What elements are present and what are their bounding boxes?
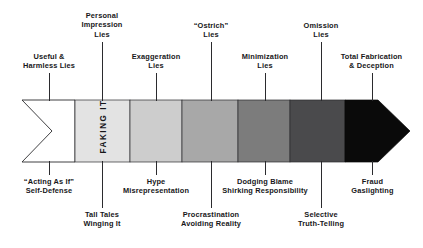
label-line: “Ostrich”: [167, 21, 255, 30]
label-line: Hype: [107, 177, 205, 186]
leader-line-above-1: [49, 73, 50, 101]
label-line: Tall Tales: [62, 210, 142, 219]
label-line: Selective: [281, 210, 361, 219]
label-total-fabrication-deception: Total Fabrication & Deception: [320, 52, 423, 71]
label-line: Lies: [218, 61, 312, 70]
label-line: Truth-Telling: [281, 219, 361, 228]
leader-line-below-1: [49, 161, 50, 175]
label-line: Dodging Blame: [196, 177, 334, 186]
lie-spectrum-diagram: FAKING IT Useful & Harmless Lies Persona…: [0, 0, 423, 248]
leader-line-above-7: [372, 73, 373, 101]
band-segment-7-arrowhead: [345, 100, 410, 162]
leader-line-below-2: [102, 161, 103, 208]
label-useful-harmless-lies: Useful & Harmless Lies: [0, 52, 98, 71]
label-line: Avoiding Reality: [162, 219, 260, 228]
label-line: Total Fabrication: [320, 52, 423, 61]
label-fraud-gaslighting: Fraud Gaslighting: [335, 177, 410, 196]
leader-line-above-5: [265, 73, 266, 101]
label-line: Fraud: [335, 177, 410, 186]
band-segment-1: [22, 100, 75, 162]
leader-line-below-5: [265, 161, 266, 175]
label-line: Winging It: [62, 219, 142, 228]
label-omission-lies: Omission Lies: [279, 21, 363, 40]
label-line: Lies: [110, 61, 202, 70]
leader-line-above-3: [156, 73, 157, 101]
label-line: Personal: [59, 11, 145, 20]
label-tall-tales-winging-it: Tall Tales Winging It: [62, 210, 142, 229]
leader-line-above-2: [102, 42, 103, 101]
label-line: Lies: [59, 30, 145, 39]
label-line: Procrastination: [162, 210, 260, 219]
label-line: Harmless Lies: [0, 61, 98, 70]
label-line: Gaslighting: [335, 186, 410, 195]
label-line: Omission: [279, 21, 363, 30]
label-acting-as-if-self-defense: “Acting As If” Self-Defense: [3, 177, 95, 196]
label-line: Lies: [167, 30, 255, 39]
label-hype-misrepresentation: Hype Misrepresentation: [107, 177, 205, 196]
leader-line-above-4: [211, 42, 212, 101]
label-line: Self-Defense: [3, 186, 95, 195]
label-ostrich-lies: “Ostrich” Lies: [167, 21, 255, 40]
band-segment-6: [290, 100, 345, 162]
label-line: Useful &: [0, 52, 98, 61]
label-line: Impression: [59, 20, 145, 29]
band-segment-5: [238, 100, 290, 162]
leader-line-below-3: [156, 161, 157, 175]
label-procrastination-avoiding-reality: Procrastination Avoiding Reality: [162, 210, 260, 229]
label-line: Misrepresentation: [107, 186, 205, 195]
label-dodging-blame-shirking-responsibility: Dodging Blame Shirking Responsibility: [196, 177, 334, 196]
band-label-faking-it: FAKING IT: [99, 99, 108, 154]
band-segment-3: [130, 100, 182, 162]
leader-line-above-6: [321, 42, 322, 101]
label-minimization-lies: Minimization Lies: [218, 52, 312, 71]
label-line: Shirking Responsibility: [196, 186, 334, 195]
label-line: Minimization: [218, 52, 312, 61]
label-personal-impression-lies: Personal Impression Lies: [59, 11, 145, 39]
label-selective-truth-telling: Selective Truth-Telling: [281, 210, 361, 229]
band-segment-4: [182, 100, 238, 162]
label-line: Exaggeration: [110, 52, 202, 61]
leader-line-below-7: [372, 161, 373, 175]
label-line: “Acting As If”: [3, 177, 95, 186]
label-line: Lies: [279, 30, 363, 39]
label-exaggeration-lies: Exaggeration Lies: [110, 52, 202, 71]
label-line: & Deception: [320, 61, 423, 70]
